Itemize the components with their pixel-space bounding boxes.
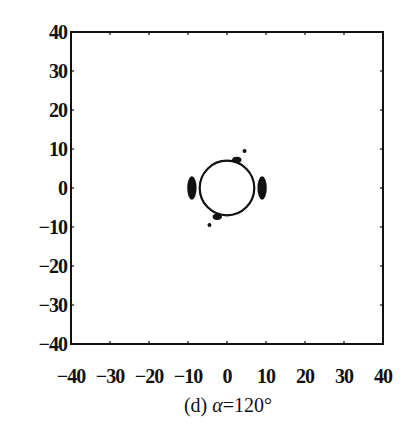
- x-tick-label: 30: [335, 365, 354, 387]
- x-tick-label: 0: [223, 365, 233, 387]
- x-tick-label: 40: [374, 365, 393, 387]
- x-tick-label: −10: [174, 365, 203, 387]
- left-lobe: [187, 176, 196, 199]
- data-point: [243, 149, 247, 153]
- x-tick-label: −40: [57, 365, 86, 387]
- data-point: [207, 223, 211, 227]
- plot-frame: [71, 32, 383, 344]
- y-tick-label: −30: [39, 294, 68, 316]
- y-tick-label: 0: [58, 177, 68, 199]
- y-tick-label: 10: [49, 138, 68, 160]
- top-right-blob: [232, 157, 241, 163]
- bottom-left-blob: [213, 214, 222, 220]
- scatter-chart: −40−30−20−10010203040 403020100−10−20−30…: [0, 0, 415, 444]
- y-tick-label: −10: [39, 216, 68, 238]
- x-tick-label: −30: [96, 365, 125, 387]
- x-axis-tick-labels: −40−30−20−10010203040: [57, 365, 393, 387]
- y-tick-label: 40: [49, 21, 68, 43]
- y-tick-label: −40: [39, 333, 68, 355]
- y-axis-tick-labels: 403020100−10−20−30−40: [39, 21, 68, 355]
- right-lobe: [257, 176, 266, 199]
- y-tick-label: 30: [49, 60, 68, 82]
- chart-caption: (d) α=120°: [184, 394, 272, 417]
- x-tick-label: 20: [296, 365, 315, 387]
- y-tick-label: −20: [39, 255, 68, 277]
- x-tick-label: −20: [135, 365, 164, 387]
- x-tick-label: 10: [257, 365, 276, 387]
- y-tick-label: 20: [49, 99, 68, 121]
